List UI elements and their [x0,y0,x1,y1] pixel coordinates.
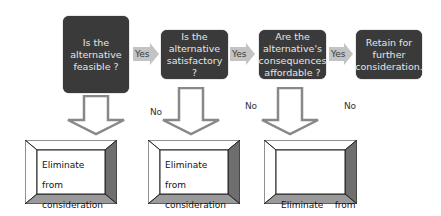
decision-feasible-label: Is the alternative feasible ? [63,37,129,73]
no-arrow-2: No [161,87,221,136]
eliminate-line2-2: consideration [165,195,223,215]
down-arrow-icon [260,87,320,136]
eliminate-box-1: Eliminate from consideration [25,140,117,204]
eliminate-box-2: Eliminate from consideration [148,140,240,204]
no-arrow-3: No [260,87,320,136]
decision-affordable-label: Are the alternative's consequences affor… [256,31,330,79]
retain-box: Retain for further consideration. [356,30,422,79]
yes-arrow-2: Yes [230,43,255,65]
no-label-3: No [320,101,380,111]
down-arrow-icon [66,95,126,136]
retain-label: Retain for further consideration. [352,37,425,73]
eliminate-line1-2: Eliminate from [165,155,223,195]
down-arrow-icon [161,87,221,136]
yes-label-2: Yes [232,49,247,59]
no-arrow-1: No [66,95,126,136]
yes-label-3: Yes [331,49,346,59]
decision-satisfactory: Is the alternative satisfactory ? [161,30,228,79]
eliminate-line1-3: Eliminate from [281,195,340,215]
yes-label-1: Yes [135,49,150,59]
decision-satisfactory-label: Is the alternative satisfactory ? [161,31,228,79]
yes-arrow-1: Yes [133,43,159,65]
decision-feasible: Is the alternative feasible ? [63,16,129,93]
eliminate-line1-1: Eliminate from [42,155,100,195]
yes-arrow-3: Yes [329,43,353,65]
eliminate-box-3: Eliminate from consideration [264,140,357,204]
decision-affordable: Are the alternative's consequences affor… [259,30,326,79]
eliminate-line2-1: consideration [42,195,100,215]
